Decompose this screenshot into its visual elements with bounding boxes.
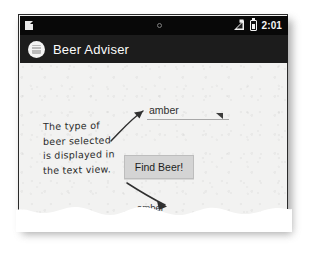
status-bar-right: 2:01: [233, 17, 282, 35]
beer-type-spinner[interactable]: amber: [147, 105, 229, 125]
status-bar-clock: 2:01: [262, 21, 282, 31]
annotated-device-figure: 2:01 Beer Adviser amber Find Beer! amber: [18, 14, 288, 230]
battery-icon: [250, 20, 257, 31]
spinner-selected-value: amber: [149, 105, 179, 116]
spinner-underline: [147, 119, 229, 120]
annotation-line: the text view.: [43, 161, 135, 178]
beer-mug-app-icon: [28, 41, 45, 58]
signal-bars-icon: [233, 17, 245, 35]
app-title: Beer Adviser: [53, 43, 129, 56]
dropdown-caret-icon: [216, 113, 223, 119]
status-bar: 2:01: [20, 16, 288, 35]
status-bar-left: [25, 21, 162, 30]
handwritten-annotation: The type of beer selected is displayed i…: [43, 118, 135, 178]
torn-paper-edge: [16, 198, 292, 232]
app-bar: Beer Adviser: [20, 35, 288, 63]
document-icon: [25, 21, 33, 30]
dot-icon: [157, 23, 162, 28]
